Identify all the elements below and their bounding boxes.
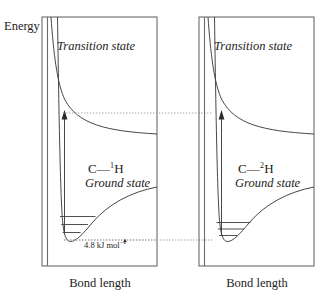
x-axis-label-right: Bond length bbox=[207, 277, 307, 290]
panel-frame-right bbox=[199, 17, 314, 266]
transition-state-label-left: Transition state bbox=[57, 40, 135, 53]
zpe-value-text: 4.8 kJ mol bbox=[84, 240, 120, 250]
panel-left bbox=[42, 17, 157, 266]
ground-state-label-left: Ground state bbox=[85, 177, 150, 190]
transition-state-label-right: Transition state bbox=[214, 40, 292, 53]
ground-state-label-right: Ground state bbox=[235, 177, 300, 190]
activation-arrow-head-left bbox=[62, 110, 68, 120]
species-label-left: C—1H bbox=[88, 162, 124, 175]
x-axis-label-left: Bond length bbox=[50, 277, 150, 290]
species-bond-text-left: C— bbox=[88, 161, 110, 176]
panel-right bbox=[199, 17, 314, 266]
isotope-element-left: H bbox=[114, 161, 124, 176]
zpe-exponent: −1 bbox=[120, 239, 126, 245]
transition-state-curve-right bbox=[208, 17, 314, 134]
transition-state-curve-left bbox=[51, 17, 157, 134]
species-bond-text-right: C— bbox=[238, 161, 260, 176]
isotope-element-right: H bbox=[264, 161, 274, 176]
zero-point-energy-label: 4.8 kJ mol−1 bbox=[84, 241, 126, 250]
y-axis-label: Energy bbox=[4, 20, 40, 33]
species-label-right: C—2H bbox=[238, 162, 274, 175]
panel-frame-left bbox=[42, 17, 157, 266]
activation-arrow-head-right bbox=[219, 110, 225, 120]
potential-energy-diagram: Energy Transition state Transition state… bbox=[0, 0, 334, 300]
